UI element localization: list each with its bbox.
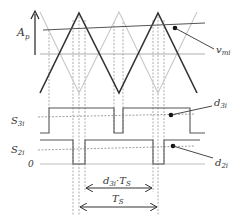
pwm-diagram: Ap vmi S3i S2i 0 d3i d2i d3i·TS TS (0, 0, 244, 222)
period-label: TS (112, 193, 124, 206)
s2i-waveform (38, 140, 213, 164)
reference-vmi-label: vmi (216, 44, 231, 57)
carrier-dark-triangle (40, 13, 197, 93)
d3i-leader (171, 106, 212, 115)
s3i-waveform (38, 106, 212, 133)
amplitude-label: Ap (16, 26, 30, 41)
zero-label: 0 (28, 159, 34, 169)
s3i-label: S3i (11, 115, 25, 128)
s2i-label: S2i (11, 144, 25, 157)
d2i-label: d2i (215, 157, 228, 170)
duty-period-label: d3i·TS (103, 175, 131, 188)
d3i-label: d3i (214, 97, 227, 110)
d2i-leader (173, 146, 213, 158)
reference-vmi-line (43, 23, 205, 30)
